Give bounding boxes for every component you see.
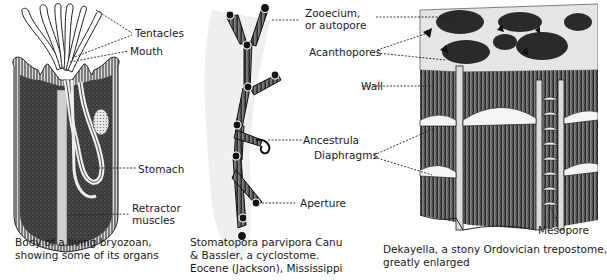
dekayella-block-drawing bbox=[362, 4, 598, 230]
label-retractor-line1: Retractor bbox=[132, 202, 181, 214]
label-mouth: Mouth bbox=[130, 45, 163, 57]
caption-line: Dekayella, a stony Ordovician trepostome… bbox=[383, 243, 607, 256]
label-ancestrula: Ancestrula bbox=[303, 134, 359, 146]
caption-line: & Bassler, a cyclostome. bbox=[190, 249, 343, 262]
label-zooecium-line2: or autopore bbox=[305, 19, 366, 31]
caption-line: Eocene (Jackson), Mississippi bbox=[190, 262, 343, 275]
label-aperture: Aperture bbox=[300, 197, 346, 209]
caption-line: Body of a living bryozoan, bbox=[15, 236, 159, 249]
label-zooecium-line1: Zooecium, bbox=[305, 7, 360, 19]
caption-line: Stomatopora parvipora Canu bbox=[190, 236, 343, 249]
label-stomach: Stomach bbox=[138, 163, 184, 175]
label-wall: Wall bbox=[361, 80, 383, 92]
label-acanthopores: Acanthopores bbox=[309, 46, 381, 58]
caption-line: greatly enlarged bbox=[383, 256, 607, 269]
label-tentacles: Tentacles bbox=[135, 27, 184, 39]
caption-dekayella: Dekayella, a stony Ordovician trepostome… bbox=[383, 243, 607, 269]
label-mesopore: Mesopore bbox=[538, 224, 589, 236]
label-retractor-line2: muscles bbox=[132, 214, 175, 226]
stomatopora-colony-drawing bbox=[205, 4, 303, 259]
caption-line: showing some of its organs bbox=[15, 249, 159, 262]
caption-bryozoan: Body of a living bryozoan, showing some … bbox=[15, 236, 159, 262]
label-diaphragms: Diaphragms bbox=[314, 149, 378, 161]
caption-stomatopora: Stomatopora parvipora Canu & Bassler, a … bbox=[190, 236, 343, 275]
bryozoan-body-drawing bbox=[13, 4, 136, 252]
